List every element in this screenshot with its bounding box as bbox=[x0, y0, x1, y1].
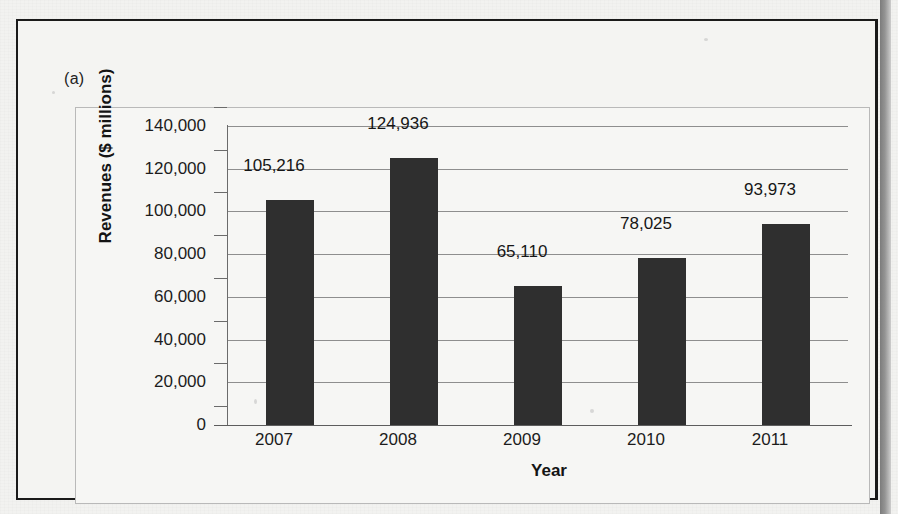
figure-outer-frame: (a) Revenues ($ millions) 020,00040,0006… bbox=[16, 19, 878, 500]
y-axis-tick bbox=[214, 150, 227, 151]
y-axis-tick bbox=[214, 235, 227, 236]
scanned-figure-page: (a) Revenues ($ millions) 020,00040,0006… bbox=[0, 0, 898, 514]
y-axis-tick bbox=[214, 406, 227, 407]
x-axis-line bbox=[214, 425, 852, 426]
gridline bbox=[228, 126, 848, 127]
y-axis-tick bbox=[214, 192, 227, 193]
gridline bbox=[228, 211, 848, 212]
y-axis-tick-label: 140,000 bbox=[96, 116, 206, 136]
y-axis-tick-label: 120,000 bbox=[96, 159, 206, 179]
x-axis-tick-label: 2008 bbox=[379, 430, 417, 450]
bar-value-label: 78,025 bbox=[620, 214, 672, 234]
y-axis-tick-label: 20,000 bbox=[96, 372, 206, 392]
y-axis-tick-label: 60,000 bbox=[96, 287, 206, 307]
bar bbox=[762, 224, 810, 425]
scan-speck bbox=[704, 38, 708, 41]
y-axis-tick bbox=[214, 363, 227, 364]
plot-area bbox=[228, 126, 848, 425]
y-axis-tick-label: 40,000 bbox=[96, 330, 206, 350]
bar bbox=[638, 258, 686, 425]
y-axis-tick bbox=[214, 321, 227, 322]
y-axis-tick-labels: 020,00040,00060,00080,000100,000120,0001… bbox=[88, 21, 206, 514]
x-axis-tick-label: 2007 bbox=[255, 430, 293, 450]
x-axis-tick-label: 2011 bbox=[752, 430, 789, 450]
gridline bbox=[228, 169, 848, 170]
bar-value-label: 65,110 bbox=[497, 242, 548, 262]
scan-speck bbox=[590, 409, 594, 413]
scan-edge-shadow bbox=[880, 0, 891, 514]
x-axis-tick-label: 2009 bbox=[503, 430, 541, 450]
bar-value-label: 105,216 bbox=[243, 156, 304, 176]
y-axis-tick bbox=[214, 107, 227, 108]
bar bbox=[390, 158, 438, 425]
y-axis-tick-label: 100,000 bbox=[96, 201, 206, 221]
bar bbox=[514, 286, 562, 425]
x-axis-tick-label: 2010 bbox=[627, 430, 665, 450]
bar bbox=[266, 200, 314, 425]
bar-value-label: 124,936 bbox=[367, 114, 428, 134]
y-axis-tick bbox=[214, 278, 227, 279]
x-axis-title: Year bbox=[531, 461, 567, 481]
y-axis-tick-label: 0 bbox=[96, 415, 206, 435]
panel-label: (a) bbox=[64, 70, 84, 88]
y-axis-tick-label: 80,000 bbox=[96, 244, 206, 264]
scan-speck bbox=[254, 399, 257, 404]
scan-speck bbox=[52, 91, 55, 94]
bar-value-label: 93,973 bbox=[744, 180, 796, 200]
